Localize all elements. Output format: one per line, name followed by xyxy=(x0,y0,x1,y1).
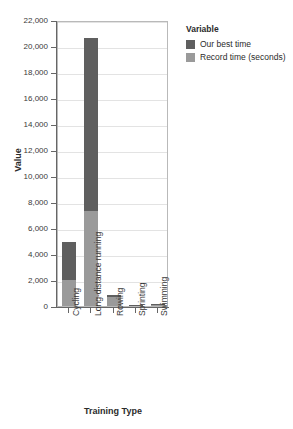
y-tick-label: 18,000 xyxy=(24,69,48,77)
gridline xyxy=(58,152,167,153)
x-tick-mark xyxy=(157,308,158,313)
x-tick-label: Rowing xyxy=(116,288,125,316)
y-tick-label: 10,000 xyxy=(24,173,48,181)
y-tick-label: 0 xyxy=(44,303,48,311)
y-tick-label: 12,000 xyxy=(24,147,48,155)
x-tick-mark xyxy=(113,308,114,313)
y-tick-mark xyxy=(51,21,56,22)
gridline xyxy=(58,100,167,101)
x-tick-label: Swimming xyxy=(160,277,169,316)
y-tick-mark xyxy=(51,307,56,308)
y-tick-label: 8,000 xyxy=(28,199,48,207)
plot-area xyxy=(57,21,168,307)
y-tick-mark xyxy=(51,47,56,48)
x-tick-mark xyxy=(68,308,69,313)
legend-title: Variable xyxy=(186,24,291,34)
y-tick-mark xyxy=(51,125,56,126)
x-axis-title: Training Type xyxy=(57,406,169,416)
y-tick-mark xyxy=(51,151,56,152)
y-tick-label: 16,000 xyxy=(24,95,48,103)
gridline xyxy=(58,126,167,127)
chart-container: 02,0004,0006,0008,00010,00012,00014,0001… xyxy=(0,0,293,429)
y-tick-mark xyxy=(51,73,56,74)
gridline xyxy=(58,178,167,179)
bar-segment-our-best-time[interactable] xyxy=(84,38,98,211)
x-tick-label: Sprinting xyxy=(138,282,147,316)
x-tick-label: Long-distance running xyxy=(94,232,103,316)
y-tick-label: 2,000 xyxy=(28,277,48,285)
x-tick-label: Cycling xyxy=(72,288,81,316)
y-axis-title: Value xyxy=(13,130,23,190)
gridline xyxy=(58,204,167,205)
gridline xyxy=(58,48,167,49)
x-tick-mark xyxy=(90,308,91,313)
legend-label: Our best time xyxy=(200,39,251,49)
y-tick-mark xyxy=(51,229,56,230)
y-tick-mark xyxy=(51,281,56,282)
legend-items: Our best timeRecord time (seconds) xyxy=(186,39,291,62)
legend-swatch-icon xyxy=(186,53,195,62)
y-tick-label: 6,000 xyxy=(28,225,48,233)
y-tick-mark xyxy=(51,99,56,100)
y-tick-mark xyxy=(51,203,56,204)
y-axis-line xyxy=(56,21,57,308)
gridline xyxy=(58,74,167,75)
legend-swatch-icon xyxy=(186,40,195,49)
legend-item[interactable]: Record time (seconds) xyxy=(186,52,291,62)
gridline xyxy=(58,22,167,23)
chart-legend: Variable Our best timeRecord time (secon… xyxy=(186,24,291,65)
y-tick-label: 4,000 xyxy=(28,251,48,259)
y-tick-mark xyxy=(51,255,56,256)
y-tick-mark xyxy=(51,177,56,178)
y-tick-label: 20,000 xyxy=(24,43,48,51)
gridline xyxy=(58,230,167,231)
bar-segment-our-best-time[interactable] xyxy=(62,242,76,280)
legend-label: Record time (seconds) xyxy=(200,52,286,62)
x-tick-mark xyxy=(135,308,136,313)
y-tick-label: 14,000 xyxy=(24,121,48,129)
y-tick-label: 22,000 xyxy=(24,17,48,25)
legend-item[interactable]: Our best time xyxy=(186,39,291,49)
